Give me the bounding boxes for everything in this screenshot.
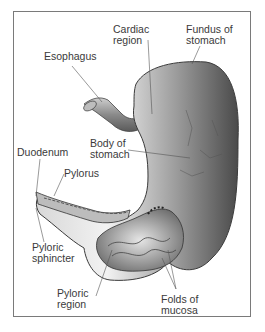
label-body-of-stomach: Body of stomach (90, 138, 130, 160)
label-pyloric-region: Pyloric region (57, 288, 89, 310)
label-pylorus: Pylorus (64, 168, 99, 179)
label-line: stomach (186, 35, 233, 46)
label-line: Esophagus (44, 51, 97, 62)
label-line: region (57, 299, 89, 310)
label-pyloric-sphincter: Pyloric sphincter (32, 242, 75, 264)
label-line: mucosa (161, 305, 198, 316)
label-line: Duodenum (17, 147, 68, 158)
label-line: Pylorus (64, 168, 99, 179)
esophagus-shape (82, 98, 142, 132)
label-duodenum: Duodenum (17, 147, 68, 158)
label-fundus: Fundus of stomach (186, 24, 233, 46)
label-line: region (113, 35, 149, 46)
label-cardiac-region: Cardiac region (113, 24, 149, 46)
stomach-illustration (0, 0, 265, 332)
label-esophagus: Esophagus (44, 51, 97, 62)
label-folds-of-mucosa: Folds of mucosa (161, 294, 198, 316)
label-line: sphincter (32, 253, 75, 264)
label-line: stomach (90, 149, 130, 160)
